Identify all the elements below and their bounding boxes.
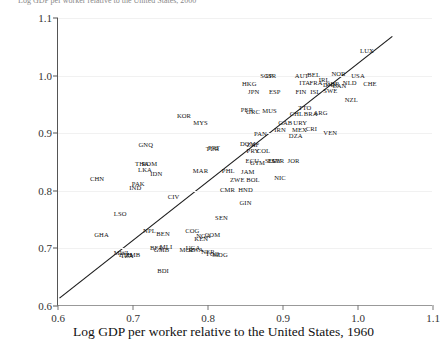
data-point-label: SYR xyxy=(271,158,284,165)
data-point-label: GHA xyxy=(94,231,109,238)
y-tick-mark xyxy=(53,133,58,134)
data-point-label: PRT xyxy=(208,145,220,152)
data-point-label: JAM xyxy=(241,168,255,175)
x-tick-label: 1.0 xyxy=(351,312,365,324)
data-point-label: JPN xyxy=(248,88,259,95)
data-point-label: CMR xyxy=(220,186,235,193)
data-point-label: CIV xyxy=(168,194,180,201)
scatter-plot-area: 0.60.70.80.91.01.10.60.70.80.91.01.1LUXU… xyxy=(57,18,432,306)
y-tick-label: 1.1 xyxy=(38,12,52,24)
data-point-label: SEN xyxy=(215,215,228,222)
data-point-label: BOL xyxy=(246,177,260,184)
data-point-label: KOR xyxy=(177,113,191,120)
data-point-label: IRL xyxy=(319,77,330,84)
data-point-label: GIN xyxy=(239,200,251,207)
data-point-label: PHL xyxy=(222,168,235,175)
data-point-label: MOZ xyxy=(180,246,195,253)
data-point-label: IND xyxy=(129,185,141,192)
y-tick-label: 0.7 xyxy=(38,242,52,254)
y-tick-mark xyxy=(53,248,58,249)
data-point-label: CHN xyxy=(90,176,104,183)
data-point-label: GRC xyxy=(246,109,260,116)
data-point-label: IRN xyxy=(274,126,286,133)
data-point-label: GNQ xyxy=(138,142,153,149)
x-tick-label: 0.8 xyxy=(201,312,215,324)
data-point-label: BEN xyxy=(156,231,170,238)
clipped-header-text: Log GDP per worker relative to the Unite… xyxy=(18,0,438,6)
x-axis-label: Log GDP per worker relative to the Unite… xyxy=(0,324,447,340)
y-tick-mark xyxy=(53,18,58,19)
y-tick-mark xyxy=(53,75,58,76)
figure-canvas: Log GDP per worker relative to the Unite… xyxy=(0,0,447,347)
data-point-label: ZWE xyxy=(230,177,245,184)
y-gridline xyxy=(58,76,432,77)
data-point-label: GTM xyxy=(250,159,265,166)
data-point-label: CRI xyxy=(306,125,317,132)
data-point-label: ITA xyxy=(299,80,310,87)
x-tick-label: 0.7 xyxy=(126,312,140,324)
y-tick-mark xyxy=(53,190,58,191)
x-tick-label: 1.1 xyxy=(426,312,440,324)
x-tick-label: 0.9 xyxy=(276,312,290,324)
data-point-label: MDG xyxy=(212,252,228,259)
y-tick-label: 1.0 xyxy=(38,70,52,82)
data-point-label: VEN xyxy=(323,129,337,136)
y-gridline xyxy=(58,18,432,19)
data-point-label: IDN xyxy=(150,171,162,178)
data-point-label: BDI xyxy=(157,268,169,275)
data-point-label: BFA xyxy=(150,245,163,252)
data-point-label: NIC xyxy=(274,175,286,182)
data-point-label: MAR xyxy=(193,168,208,175)
data-point-label: NPL xyxy=(143,228,156,235)
data-point-label: HKG xyxy=(242,81,257,88)
data-point-label: CHL xyxy=(290,111,304,118)
y-tick-label: 0.6 xyxy=(38,300,52,312)
data-point-label: ARG xyxy=(313,110,327,117)
data-point-label: LUX xyxy=(360,48,374,55)
data-point-label: PAN xyxy=(254,131,267,138)
y-tick-label: 0.9 xyxy=(38,127,52,139)
x-tick-mark xyxy=(58,305,59,310)
data-point-label: COL xyxy=(257,148,271,155)
data-point-label: MYS xyxy=(193,120,208,127)
x-tick-label: 0.6 xyxy=(51,312,65,324)
data-point-label: LSO xyxy=(114,211,127,218)
data-point-label: NZL xyxy=(345,96,358,103)
data-point-label: ISL xyxy=(310,88,320,95)
data-point-label: NOR xyxy=(331,71,345,78)
x-tick-mark xyxy=(283,305,284,310)
data-point-label: TZA xyxy=(120,253,133,260)
data-point-label: JOR xyxy=(287,158,299,165)
y-gridline xyxy=(58,133,432,134)
y-tick-label: 0.8 xyxy=(38,185,52,197)
x-tick-mark xyxy=(358,305,359,310)
data-point-label: ESP xyxy=(269,88,281,95)
data-point-label: KEN xyxy=(194,236,208,243)
x-tick-mark xyxy=(133,305,134,310)
data-point-label: FIN xyxy=(296,88,307,95)
data-point-label: MUS xyxy=(262,108,277,115)
data-point-label: CHE xyxy=(363,81,377,88)
x-tick-mark xyxy=(433,305,434,310)
data-point-label: SWE xyxy=(323,88,337,95)
data-point-label: ISR xyxy=(266,72,277,79)
data-point-label: HND xyxy=(238,186,253,193)
x-tick-mark xyxy=(208,305,209,310)
data-point-label: DZA xyxy=(289,133,303,140)
